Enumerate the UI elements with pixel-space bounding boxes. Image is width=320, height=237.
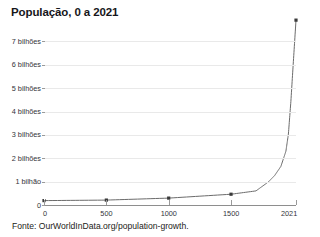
y-axis-tick-labels: 01 bilhão2 bilhões3 bilhões4 bilhões5 bi… [0, 0, 41, 237]
y-axis-tick-mark [42, 182, 45, 183]
plot-area [44, 18, 296, 205]
y-axis-tick-label: 0 [37, 201, 41, 210]
x-axis-tick-mark [106, 200, 107, 205]
y-axis-tick-mark [42, 88, 45, 89]
x-axis-tick-mark [231, 200, 232, 205]
population-chart-figure: População, 0 a 2021 01 bilhão2 bilhões3 … [0, 0, 320, 237]
gridline [44, 158, 296, 159]
gridline [44, 88, 296, 89]
gridline [44, 41, 296, 42]
y-axis-tick-label: 3 bilhões [12, 130, 41, 139]
gridline [44, 65, 296, 66]
x-axis-tick-label: 1500 [223, 209, 239, 218]
y-axis-tick-label: 1 bilhão [15, 177, 41, 186]
y-axis-tick-label: 4 bilhões [12, 107, 41, 116]
data-point-marker [229, 193, 232, 196]
y-axis-tick-mark [42, 135, 45, 136]
x-axis-tick-label: 1000 [161, 209, 177, 218]
x-axis-tick-mark [44, 200, 45, 205]
y-axis-tick-label: 2 bilhões [12, 154, 41, 163]
gridline [44, 135, 296, 136]
y-axis-tick-label: 7 bilhões [12, 37, 41, 46]
y-axis-tick-mark [42, 112, 45, 113]
x-axis-tick-label: 500 [100, 209, 112, 218]
gridline [44, 182, 296, 183]
gridline [44, 112, 296, 113]
source-note: Fonte: OurWorldInData.org/population-gro… [12, 221, 189, 231]
x-axis-tick-mark [296, 200, 297, 205]
data-point-marker [294, 19, 297, 22]
y-axis-tick-mark [42, 205, 45, 206]
x-axis-tick-mark [169, 200, 170, 205]
y-axis-tick-mark [42, 41, 45, 42]
x-axis-line [44, 205, 296, 206]
y-axis-tick-label: 5 bilhões [12, 84, 41, 93]
y-axis-tick-mark [42, 158, 45, 159]
y-axis-tick-label: 6 bilhões [12, 60, 41, 69]
x-axis-tick-label: 0 [43, 209, 47, 218]
x-axis-tick-label: 2021 [281, 209, 297, 218]
y-axis-tick-mark [42, 65, 45, 66]
